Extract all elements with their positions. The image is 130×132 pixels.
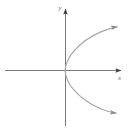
parabola-lower-branch (65, 71, 116, 114)
y-axis-label: y (58, 4, 63, 12)
parabola-figure: y x (0, 0, 130, 132)
x-axis-label: x (117, 74, 122, 82)
parabola-upper-branch (65, 27, 117, 71)
coordinate-plane-svg: y x (0, 0, 130, 132)
